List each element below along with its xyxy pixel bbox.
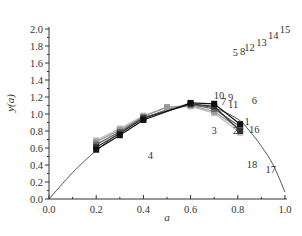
x-tick-label: 0.8: [231, 204, 244, 215]
square-marker: [117, 132, 123, 138]
point-label: 2: [233, 125, 238, 136]
point-label: 18: [247, 159, 258, 170]
x-axis-title: a: [164, 211, 170, 223]
y-axis-title: y(a): [4, 94, 17, 113]
y-tick-label: 2.0: [30, 24, 43, 35]
point-label: 5: [233, 47, 238, 58]
point-label: 16: [249, 124, 260, 135]
square-marker: [164, 104, 170, 110]
x-tick-label: 0.6: [184, 204, 197, 215]
y-tick-label: 0.2: [30, 177, 43, 188]
y-tick-label: 1.2: [30, 92, 43, 103]
point-label: 12: [244, 42, 255, 53]
point-label: 11: [228, 99, 238, 110]
point-label: 10: [214, 90, 225, 101]
y-tick-label: 0.4: [30, 160, 44, 171]
point-label: 15: [280, 24, 291, 35]
point-label: 6: [252, 95, 257, 106]
y-tick-label: 0.6: [30, 143, 43, 154]
point-labels: 123456789101112131415161718: [148, 24, 290, 174]
x-tick-label: 0.2: [90, 204, 103, 215]
point-label: 14: [268, 30, 279, 41]
data-series: [93, 100, 243, 153]
x-tick-label: 0.4: [137, 204, 151, 215]
square-marker: [93, 147, 99, 153]
point-label: 13: [256, 37, 267, 48]
y-tick-label: 1.6: [30, 58, 43, 69]
x-tick-label: 1.0: [278, 204, 291, 215]
y-tick-label: 0.0: [30, 194, 43, 205]
point-label: 17: [266, 164, 277, 175]
chart: 0.00.20.40.60.81.00.00.20.40.60.81.01.21…: [0, 0, 302, 236]
y-tick-label: 1.4: [30, 75, 44, 86]
point-label: 3: [212, 125, 217, 136]
square-marker: [188, 100, 194, 106]
square-marker: [140, 117, 146, 123]
x-tick-label: 0.0: [42, 204, 55, 215]
point-label: 4: [148, 150, 154, 161]
y-tick-label: 1.8: [30, 41, 43, 52]
square-marker: [211, 101, 217, 107]
y-tick-label: 0.8: [30, 126, 43, 137]
y-tick-label: 1.0: [30, 109, 43, 120]
